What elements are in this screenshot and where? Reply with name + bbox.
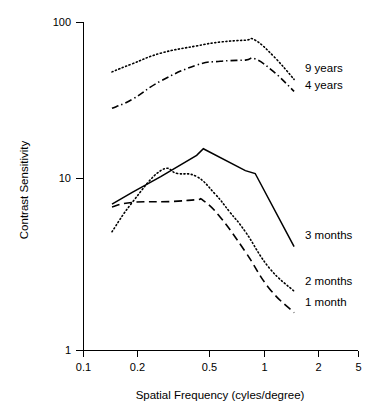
x-tick-label-0.5: 0.5 [202,361,217,373]
series-curves [112,39,294,313]
x-tick-label-0.1: 0.1 [76,361,91,373]
chart-plot-area: 100 10 1 0.1 0.2 0.5 1 2 5 Contrast Sens… [0,0,385,414]
x-tick-label-1: 1 [261,361,267,373]
x-tick-label-5: 5 [355,361,361,373]
curve-3-months [112,149,294,247]
curve-9-years [112,39,294,80]
y-tick-label-10: 10 [59,172,71,184]
x-axis-title: Spatial Frequency (cyles/degree) [136,389,305,401]
curve-2-months [112,168,294,291]
series-label-1-month: 1 month [305,296,347,308]
y-tick-label-100: 100 [53,16,71,28]
y-axis-title: Contrast Sensitivity [18,141,30,240]
series-label-3-months: 3 months [305,229,353,241]
series-labels: 9 years 4 years 3 months 2 months 1 mont… [305,62,353,308]
x-tick-label-0.2: 0.2 [130,361,145,373]
x-tick-label-2: 2 [315,361,321,373]
series-label-9-years: 9 years [305,62,343,74]
y-tick-label-1: 1 [65,344,71,356]
series-label-2-months: 2 months [305,275,353,287]
contrast-sensitivity-chart: 100 10 1 0.1 0.2 0.5 1 2 5 Contrast Sens… [0,0,385,414]
curve-1-month [112,199,294,313]
curve-4-years [112,58,294,108]
series-label-4-years: 4 years [305,79,343,91]
